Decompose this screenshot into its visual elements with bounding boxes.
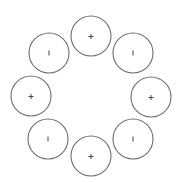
ring-node-left [11, 76, 51, 116]
ring-node-top-left [29, 33, 69, 73]
plus-icon [89, 154, 94, 159]
plus-icon [29, 94, 34, 99]
ring-diagram [0, 0, 178, 183]
ring-node-right [131, 77, 171, 117]
ring-node-top-right [113, 33, 153, 73]
ring-node-bottom-right [113, 119, 153, 159]
ring-node-bottom-left [28, 119, 68, 159]
plus-icon [89, 34, 94, 39]
plus-icon [149, 95, 154, 100]
ring-node-bottom [71, 136, 111, 176]
ring-node-top [71, 16, 111, 56]
